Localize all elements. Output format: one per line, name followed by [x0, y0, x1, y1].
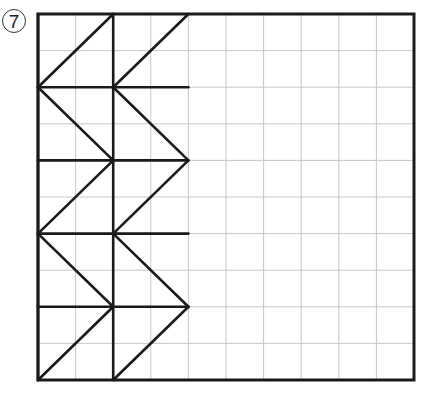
drawing-grid — [0, 0, 433, 405]
